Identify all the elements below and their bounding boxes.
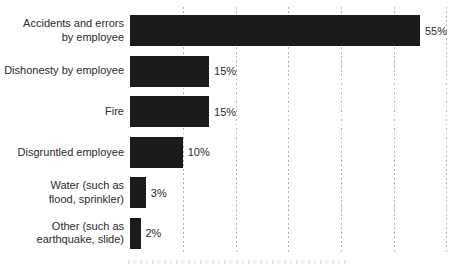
bar <box>130 96 209 127</box>
chart-row: Dishonesty by employee 15% <box>0 56 447 87</box>
category-label: Fire <box>0 96 124 127</box>
cropped-caption-remnant <box>128 260 346 264</box>
bar <box>130 56 209 87</box>
category-label: Other (such as earthquake, slide) <box>0 218 124 249</box>
category-label: Disgruntled employee <box>0 137 124 168</box>
category-label-line: by employee <box>62 31 124 45</box>
chart-rows: Accidents and errors by employee 55% Dis… <box>0 15 447 249</box>
category-label-line: Other (such as <box>52 220 124 234</box>
bar <box>130 177 146 208</box>
value-label: 3% <box>151 187 167 199</box>
category-label-line: Water (such as <box>50 179 124 193</box>
category-label-line: Fire <box>105 105 124 119</box>
chart-row: Water (such as flood, sprinkler) 3% <box>0 177 447 208</box>
chart-row: Accidents and errors by employee 55% <box>0 15 447 46</box>
category-label-line: earthquake, slide) <box>37 233 124 247</box>
category-label: Water (such as flood, sprinkler) <box>0 177 124 208</box>
category-label: Dishonesty by employee <box>0 56 124 87</box>
category-label-line: flood, sprinkler) <box>49 193 124 207</box>
category-label: Accidents and errors by employee <box>0 15 124 46</box>
chart-row: Other (such as earthquake, slide) 2% <box>0 218 447 249</box>
category-label-line: Dishonesty by employee <box>4 64 124 78</box>
category-label-line: Disgruntled employee <box>18 146 124 160</box>
bar <box>130 15 420 46</box>
bar-chart: Accidents and errors by employee 55% Dis… <box>0 0 457 268</box>
value-label: 55% <box>425 25 447 37</box>
value-label: 15% <box>214 106 236 118</box>
category-label-line: Accidents and errors <box>23 17 124 31</box>
bar <box>130 218 141 249</box>
chart-row: Fire 15% <box>0 96 447 127</box>
value-label: 10% <box>188 146 210 158</box>
chart-row: Disgruntled employee 10% <box>0 137 447 168</box>
bar <box>130 137 183 168</box>
value-label: 15% <box>214 65 236 77</box>
value-label: 2% <box>146 227 162 239</box>
